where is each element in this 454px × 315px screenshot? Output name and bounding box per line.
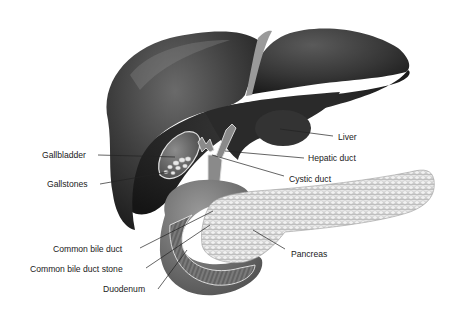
- label-duodenum: Duodenum: [103, 285, 145, 294]
- label-common-bile-duct: Common bile duct: [53, 245, 122, 254]
- leader-cystic-duct: [212, 155, 284, 176]
- label-hepatic-duct: Hepatic duct: [308, 154, 356, 163]
- label-cystic-duct: Cystic duct: [289, 175, 331, 184]
- caudate-lobe: [255, 110, 311, 146]
- label-pancreas: Pancreas: [291, 250, 327, 259]
- label-common-bile-duct-stone: Common bile duct stone: [30, 265, 123, 274]
- liver-right-lobe: [248, 29, 409, 95]
- label-liver: Liver: [338, 133, 357, 142]
- label-gallstones: Gallstones: [47, 180, 88, 189]
- label-gallbladder: Gallbladder: [42, 151, 86, 160]
